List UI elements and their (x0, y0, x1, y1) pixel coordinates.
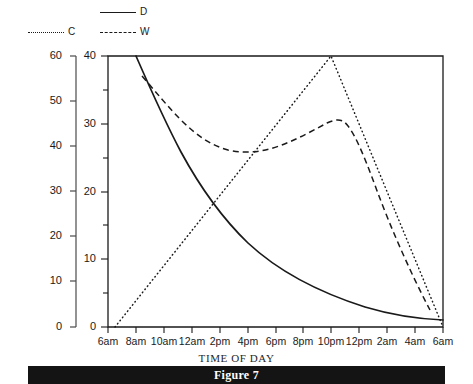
y-inner-tick-20: 20 (74, 186, 96, 197)
y-left-tick-40: 40 (36, 140, 62, 151)
figure-7: D C W (0, 0, 473, 384)
y-inner-tick-10: 10 (74, 253, 96, 264)
y-axis-inner-ticks (101, 56, 108, 327)
x-axis-title: TIME OF DAY (0, 352, 473, 364)
x-tick-6am-end: 6am (423, 336, 463, 347)
x-axis-ticks (108, 327, 443, 333)
y-inner-tick-40: 40 (74, 50, 96, 61)
y-inner-tick-30: 30 (74, 118, 96, 129)
series-line-d (136, 56, 443, 320)
series-line-w (142, 76, 430, 310)
y-left-tick-10: 10 (36, 275, 62, 286)
figure-caption-banner: Figure 7 (28, 366, 445, 384)
y-left-tick-0: 0 (36, 321, 62, 332)
figure-caption-text: Figure 7 (28, 366, 445, 384)
chart-plot-area (0, 0, 473, 384)
y-left-tick-30: 30 (36, 185, 62, 196)
series-line-c (115, 56, 443, 327)
plot-frame (108, 56, 443, 327)
y-left-tick-50: 50 (36, 95, 62, 106)
y-left-tick-20: 20 (36, 230, 62, 241)
y-left-tick-60: 60 (36, 50, 62, 61)
y-inner-tick-0: 0 (74, 321, 96, 332)
